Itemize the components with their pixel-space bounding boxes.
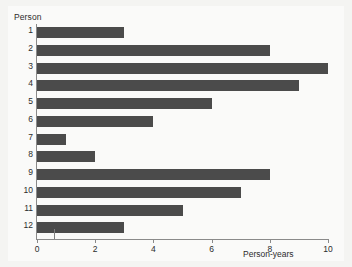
x-tick-label: 6 [209,244,214,254]
y-tick-label: 8 [28,149,33,159]
y-tick-row: 6 [37,113,328,131]
y-tick-row: 11 [37,202,328,220]
x-axis-title: Person-years [243,249,294,259]
y-axis-title: Person [14,12,42,22]
y-tick-row: 8 [37,148,328,166]
y-tick-label: 10 [24,185,33,195]
y-tick-row: 3 [37,60,328,78]
x-tick-mark [95,239,96,243]
y-tick-row: 4 [37,77,328,95]
y-tick-label: 11 [24,203,33,213]
stray-tick-mark [54,229,55,239]
y-tick-label: 2 [28,43,33,53]
y-tick-label: 5 [28,96,33,106]
x-tick-mark [212,239,213,243]
x-tick-label: 4 [151,244,156,254]
y-tick-row: 2 [37,42,328,60]
x-tick-mark [328,239,329,243]
y-tick-row: 9 [37,166,328,184]
y-tick-label: 6 [28,114,33,124]
x-tick-mark [270,239,271,243]
y-tick-labels-group: 123456789101112 [37,24,328,237]
y-tick-row: 7 [37,131,328,149]
y-tick-label: 3 [28,61,33,71]
y-tick-label: 4 [28,78,33,88]
y-tick-row: 1 [37,24,328,42]
x-tick-mark [37,239,38,243]
y-tick-label: 12 [24,220,33,230]
y-tick-label: 7 [28,132,33,142]
x-tick-label: 0 [35,244,40,254]
x-tick-label: 10 [323,244,332,254]
chart-figure: Person 123456789101112 0246810 Person-ye… [0,0,352,267]
x-tick-mark [153,239,154,243]
x-tick-label: 2 [93,244,98,254]
y-tick-row: 10 [37,184,328,202]
y-tick-label: 1 [28,25,33,35]
y-tick-row: 12 [37,219,328,237]
y-tick-row: 5 [37,95,328,113]
y-tick-label: 9 [28,167,33,177]
